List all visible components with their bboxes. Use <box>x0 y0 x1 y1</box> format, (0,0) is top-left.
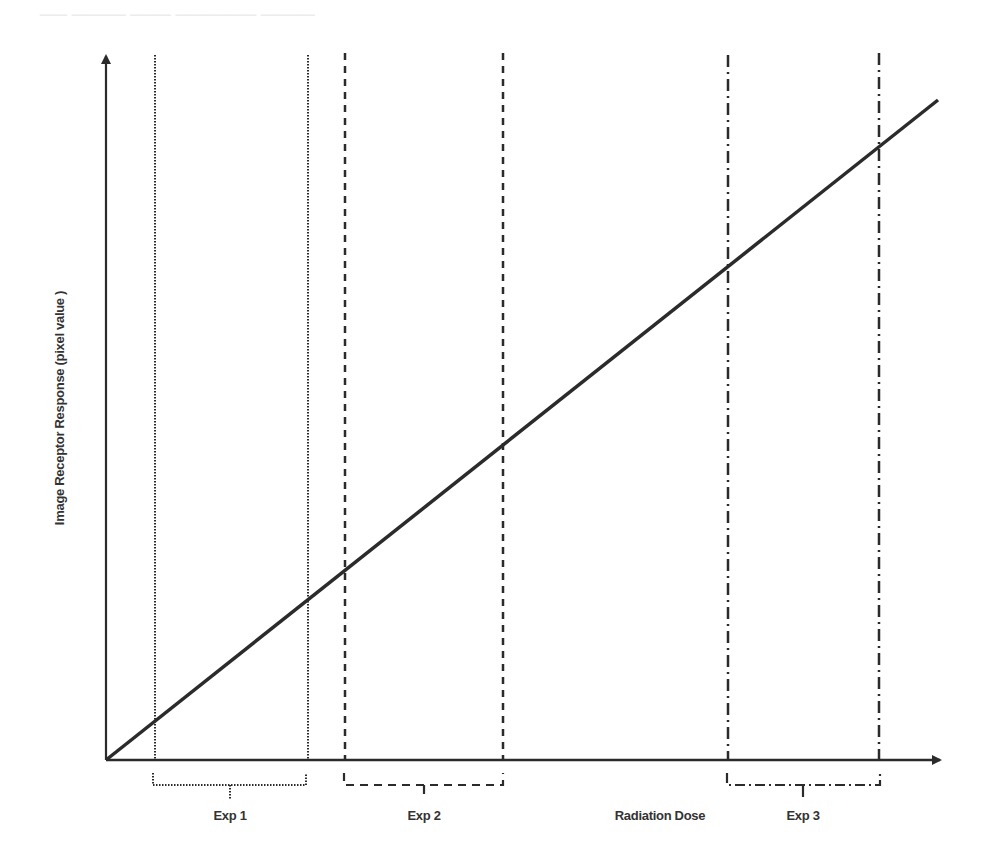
exp3-bracket <box>727 773 880 785</box>
exp1-bracket <box>153 773 306 800</box>
exp2-label: Exp 2 <box>407 808 440 823</box>
dose-response-diagram: Image Receptor Response (pixel value ) R… <box>0 0 985 865</box>
exp3-boundaries <box>728 53 879 760</box>
response-line <box>106 100 938 760</box>
exp1-label: Exp 1 <box>213 808 246 823</box>
x-axis-label: Radiation Dose <box>615 808 705 823</box>
exp2-bracket <box>344 773 503 785</box>
exp1-boundaries <box>155 55 308 760</box>
exp2-boundaries <box>345 53 503 760</box>
y-axis-label: Image Receptor Response (pixel value ) <box>52 291 67 525</box>
exp3-label: Exp 3 <box>786 808 819 823</box>
